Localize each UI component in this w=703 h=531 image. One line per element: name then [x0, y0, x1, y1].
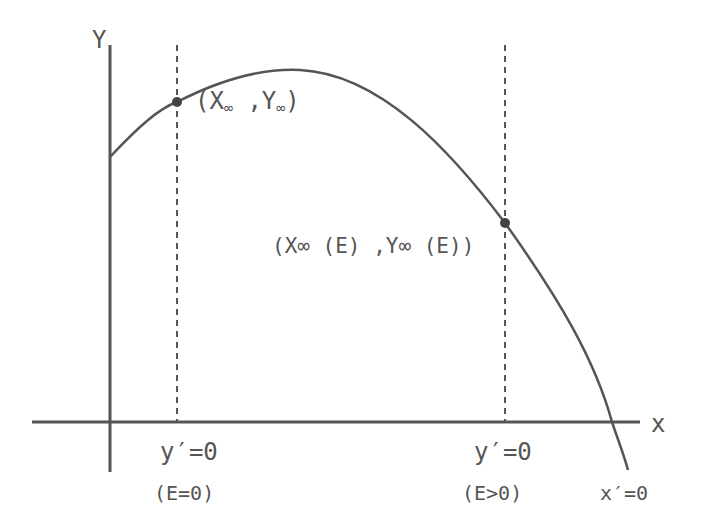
point-epos-label: (X∞ (E) ,Y∞ (E)) — [272, 236, 474, 257]
point-e0 — [172, 97, 182, 107]
marker-e0-note: (E=0) — [154, 483, 214, 503]
phase-diagram — [0, 0, 703, 531]
point-epos — [500, 218, 510, 228]
marker-epos-condition: y′=0 — [474, 440, 532, 464]
marker-epos-note: (E>0) — [462, 483, 522, 503]
marker-e0-condition: y′=0 — [160, 440, 218, 464]
trajectory-curve — [110, 70, 628, 470]
cropped-text-fragment — [590, 0, 690, 4]
x-axis-label: x — [651, 412, 665, 436]
y-axis-label: Y — [92, 28, 106, 52]
point-e0-label: (X∞ ,Y∞) — [195, 89, 300, 116]
curve-end-label: x′=0 — [600, 483, 648, 503]
